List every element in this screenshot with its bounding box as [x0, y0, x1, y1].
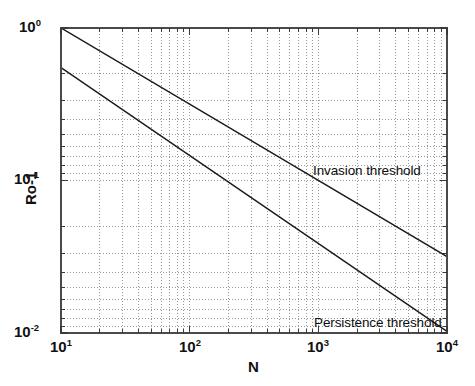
y-tick-label-1e-2: 10-2: [14, 323, 39, 340]
persistence-threshold-label: Persistence threshold: [314, 315, 442, 330]
x-axis-title: N: [248, 358, 259, 375]
x-tick-label-1e1: 101: [50, 338, 72, 355]
y-tick-label-1e0: 100: [19, 18, 41, 35]
y-axis-title: Ro-1: [22, 172, 39, 205]
x-tick-label-1e4: 104: [436, 338, 458, 355]
x-tick-label-1e3: 103: [307, 338, 329, 355]
invasion-threshold-label: Invasion threshold: [313, 163, 421, 178]
chart-page: 100 10-1 10-2 101 102 103 104 Ro-1 N Inv…: [0, 0, 475, 386]
x-tick-label-1e2: 102: [179, 338, 201, 355]
